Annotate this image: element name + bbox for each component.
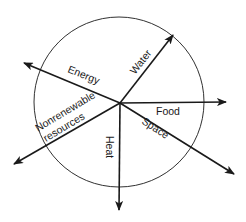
resource-diagram: Water Energy Food Space Heat Nonrenewabl…: [0, 0, 246, 222]
heat-arrow: [119, 103, 120, 210]
food-label: Food: [156, 105, 180, 117]
space-label: Space: [140, 115, 172, 141]
water-label: Water: [127, 47, 154, 77]
food-arrow: [120, 102, 226, 103]
heat-label: Heat: [104, 136, 116, 158]
